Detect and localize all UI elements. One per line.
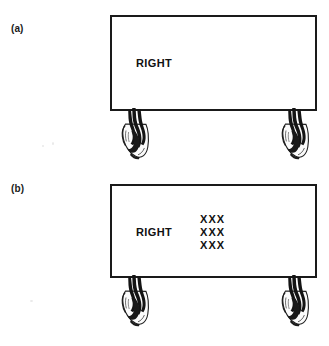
panel-a-sign: RIGHT [110,15,317,111]
panel-a-label: (a) [11,24,24,34]
panel-b-label: (b) [11,184,24,194]
panel-b-sign-inner: RIGHT XXX XXX XXX [112,186,315,276]
panel-a-sign-inner: RIGHT [112,17,315,109]
sign-xxx-row: XXX [200,226,225,239]
panel-a-sign-word: RIGHT [136,58,172,69]
panel-a: (a) RIGHT [0,0,329,173]
panel-b-sign-word: RIGHT [136,227,172,238]
figure-root: (a) RIGHT [0,0,329,346]
sign-xxx-row: XXX [200,239,225,252]
hand-gripping-icon-left-a [119,106,153,160]
panel-b-sign: RIGHT XXX XXX XXX [110,184,317,278]
hand-gripping-icon-right-b [279,273,313,327]
panel-b-sign-xxx-block: XXX XXX XXX [200,213,225,252]
panel-b: (b) RIGHT XXX XXX XXX [0,169,329,346]
hand-gripping-icon-left-b [119,273,153,327]
hand-gripping-icon-right-a [279,106,313,160]
sign-xxx-row: XXX [200,213,225,226]
